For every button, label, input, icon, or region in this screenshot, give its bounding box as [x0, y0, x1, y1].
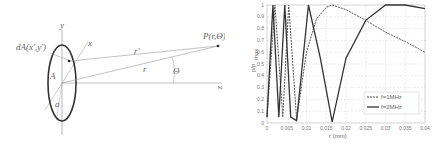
y-tick-label: 0.7 [257, 37, 264, 43]
y-tick-label: 1 [261, 2, 264, 8]
legend-label-2mhz: f=2MHz [381, 104, 402, 110]
y-axis-title-subscript: max [253, 49, 259, 60]
x-axis-title: r (mm) [329, 133, 347, 139]
legend-label-1mhz: f=1MHz [381, 94, 402, 100]
area-element-label: dA(x',y') [16, 42, 46, 52]
y-tick-label: 0.8 [257, 25, 264, 31]
r-label: r [143, 64, 147, 74]
y-tick-label: 0.1 [257, 108, 264, 114]
x-tick-label: 0.035 [399, 125, 412, 131]
x-tick-label: 0.02 [341, 125, 351, 131]
y-tick-label: 0.5 [257, 61, 264, 67]
point-p [217, 45, 220, 48]
r-prime-line [70, 46, 218, 61]
x-tick-label: 0.005 [280, 125, 293, 131]
y-tick-label: 0.3 [257, 84, 264, 90]
r-prime-label: r' [134, 46, 141, 56]
theta-label: Θ [173, 66, 180, 76]
y-tick-label: 0 [261, 120, 264, 126]
area-element-dot [68, 60, 71, 63]
aperture-label: A [49, 71, 56, 81]
transducer-geometry-diagram: y x z dA(x',y') A a r' r Θ P(r,Θ) [0, 0, 225, 148]
x-tick-label: 0.025 [359, 125, 372, 131]
x-tick-label: 0.01 [302, 125, 312, 131]
y-tick-label: 0.2 [257, 96, 264, 102]
y-axis-label: y [59, 20, 64, 30]
chart-legend: f=1MHz f=2MHz [364, 92, 419, 114]
x-axis-label: x [87, 38, 92, 48]
x-tick-label: 0.04 [420, 125, 430, 131]
x-tick-label: 0.03 [381, 125, 391, 131]
x-tick-label: 0 [266, 125, 269, 131]
y-tick-label: 0.9 [257, 13, 264, 19]
pressure-profile-chart: 00.0050.010.0150.020.0250.030.0350.0400.… [221, 0, 442, 148]
x-tick-label: 0.015 [320, 125, 333, 131]
radius-label: a [55, 99, 60, 109]
y-tick-label: 0.4 [257, 72, 264, 78]
y-axis-title: p/p [250, 63, 256, 72]
r-line [62, 46, 218, 83]
